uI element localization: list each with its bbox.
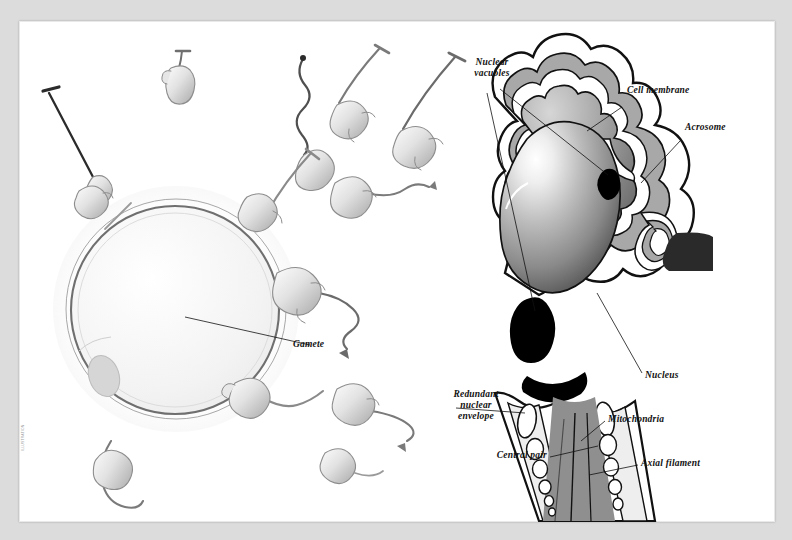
label-gamete: Gamete [293,339,324,350]
label-acrosome: Acrosome [685,122,726,133]
label-central-pair: Central pair [459,450,547,461]
nuclear-vacuole-lower [510,297,555,363]
label-nuclear-vacuoles: Nuclear vacuoles [457,57,527,79]
figure-canvas: Nuclear vacuoles Cell membrane Acrosome … [0,0,792,540]
paper-sheet: Nuclear vacuoles Cell membrane Acrosome … [19,21,775,522]
leader-nucleus [597,293,642,373]
credit-line: ILLUSTRATION [21,425,25,451]
label-axial-filament: Axial filament [641,458,700,469]
label-cell-membrane: Cell membrane [627,85,690,96]
spermatozoon-detail [493,34,713,521]
label-nucleus: Nucleus [645,370,679,381]
label-redundant-nuclear-envelope: Redundant nuclear envelope [437,389,515,423]
label-mitochondria: Mitochondria [608,414,664,425]
